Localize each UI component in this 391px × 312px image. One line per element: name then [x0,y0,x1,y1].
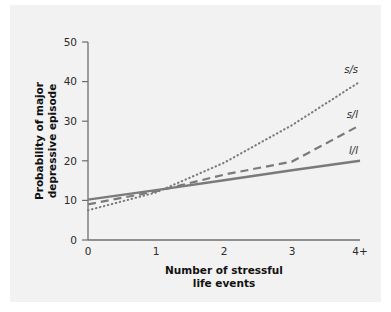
y-axis-title-line1: Probability of major [33,81,45,200]
x-tick-label-4plus: 4+ [352,245,367,257]
y-tick-label-10: 10 [64,194,77,206]
x-tick-label-0: 0 [85,245,92,257]
x-axis-title-line1: Number of stressful [165,264,283,276]
x-tick-label-1: 1 [153,245,160,257]
figure-canvas: 0 10 20 30 40 50 0 1 2 3 4+ s/s s/l l/l … [0,0,391,312]
series-label-s-l: s/l [347,109,359,120]
y-tick-label-30: 30 [64,115,77,127]
x-axis-title-line2: life events [193,277,255,289]
series-label-l-l: l/l [349,145,358,156]
x-tick-label-2: 2 [221,245,228,257]
y-tick-label-40: 40 [64,75,77,87]
chart-plot: 0 10 20 30 40 50 0 1 2 3 4+ s/s s/l l/l … [0,0,391,312]
series-label-s-s: s/s [344,64,358,75]
y-tick-label-0: 0 [70,234,77,246]
y-tick-label-20: 20 [64,155,77,167]
y-axis-title-line2: depressive episode [46,84,58,199]
plot-area-background [88,42,360,240]
y-tick-label-50: 50 [64,36,77,48]
x-tick-label-3: 3 [289,245,296,257]
